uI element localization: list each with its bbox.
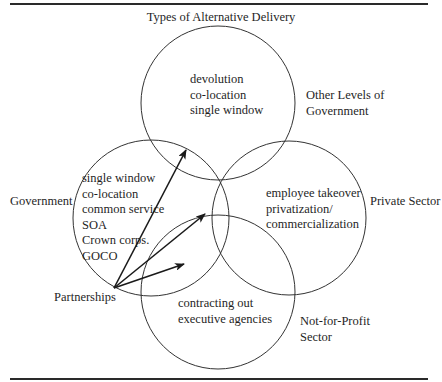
item: single window xyxy=(82,171,164,187)
item: co-location xyxy=(190,88,263,104)
not-for-profit-label: Not-for-Profit Sector xyxy=(300,314,370,345)
government-label: Government xyxy=(10,194,72,209)
item: Crown corps. xyxy=(82,233,164,249)
item: GOCO xyxy=(82,249,164,265)
partnerships-label: Partnerships xyxy=(54,290,116,305)
not-for-profit-items: contracting out executive agencies xyxy=(178,296,272,327)
item: common service xyxy=(82,202,164,218)
item: contracting out xyxy=(178,296,272,312)
bottom-rule xyxy=(10,378,428,380)
private-sector-items: employee takeover privatization/ commerc… xyxy=(266,186,361,233)
item: single window xyxy=(190,103,263,119)
item: privatization/ xyxy=(266,202,361,218)
item: devolution xyxy=(190,72,263,88)
item: co-location xyxy=(82,187,164,203)
item: employee takeover xyxy=(266,186,361,202)
other-levels-items: devolution co-location single window xyxy=(190,72,263,119)
private-sector-label: Private Sector xyxy=(370,194,440,209)
item: commercialization xyxy=(266,217,361,233)
item: SOA xyxy=(82,218,164,234)
government-items: single window co-location common service… xyxy=(82,171,164,264)
other-levels-label: Other Levels of Government xyxy=(306,88,384,119)
item: executive agencies xyxy=(178,312,272,328)
